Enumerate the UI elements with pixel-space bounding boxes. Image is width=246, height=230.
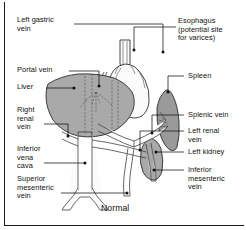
label-portal-vein: Portal vein	[17, 66, 73, 75]
label-left-renal-vein: Left renal vein	[188, 127, 242, 144]
label-inferior-mesenteric-vein: Inferior mesenteric vein	[188, 166, 244, 192]
left-renal-vein-vessel	[92, 140, 146, 158]
label-splenic-vein: Splenic vein	[188, 111, 246, 120]
leader-esophagus	[133, 27, 177, 52]
figure-caption: Normal	[101, 203, 129, 213]
liver-organ	[46, 74, 134, 137]
label-liver: Liver	[17, 83, 53, 92]
leader-left-gastric-vein	[74, 24, 165, 54]
label-superior-mesenteric-vein: Superior mesenteric vein	[17, 175, 69, 201]
label-spleen: Spleen	[188, 72, 244, 81]
label-right-renal-vein: Right renal vein	[17, 106, 51, 132]
anatomy-figure: .ol { fill: none; stroke: #1a1a1a; strok…	[0, 0, 246, 230]
left-kidney-organ	[140, 138, 162, 180]
label-inferior-vena-cava: Inferior vena cava	[17, 145, 51, 171]
label-left-gastric-vein: Left gastric vein	[17, 16, 75, 33]
label-esophagus: Esophagus (potential site for varices)	[178, 17, 244, 43]
label-left-kidney: Left kidney	[188, 148, 244, 157]
esophagus-organ	[120, 40, 130, 67]
